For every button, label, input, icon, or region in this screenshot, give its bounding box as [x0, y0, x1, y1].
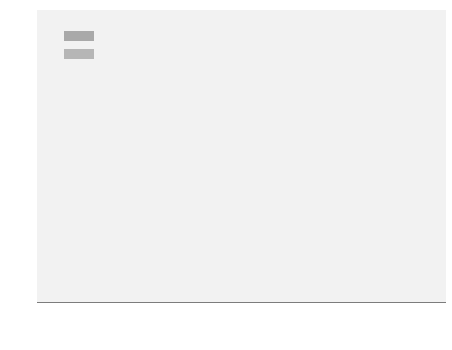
y-axis-ticks	[0, 0, 452, 350]
bar-chart	[0, 0, 452, 350]
